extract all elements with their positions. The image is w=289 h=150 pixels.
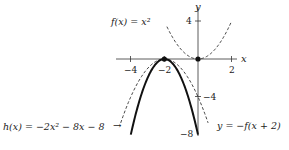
y-axis-label: y (194, 1, 201, 12)
y-tick-label-neg4: −4 (203, 92, 217, 102)
vertex-point-origin (195, 56, 200, 61)
x-axis-label: x (241, 53, 247, 64)
h-curve-label: h(x) = −2x² − 8x − 8 (3, 121, 105, 132)
function-graph: y x −4 −2 2 4 −4 −8 f(x) = x² y = −f(x +… (0, 0, 289, 150)
x-tick-label-neg4: −4 (124, 65, 138, 75)
f-curve-label: f(x) = x² (110, 16, 151, 27)
y-tick-label-neg8: −8 (180, 129, 194, 139)
x-tick-label-neg2: −2 (158, 65, 171, 75)
h-arrow-icon: → (113, 120, 122, 131)
vertex-point-neg2 (162, 56, 167, 61)
x-tick-label-2: 2 (229, 65, 235, 75)
y-tick-label-4: 4 (186, 16, 192, 26)
shifted-curve-label: y = −f(x + 2) (216, 120, 281, 131)
curve-f-x-squared (167, 21, 232, 59)
